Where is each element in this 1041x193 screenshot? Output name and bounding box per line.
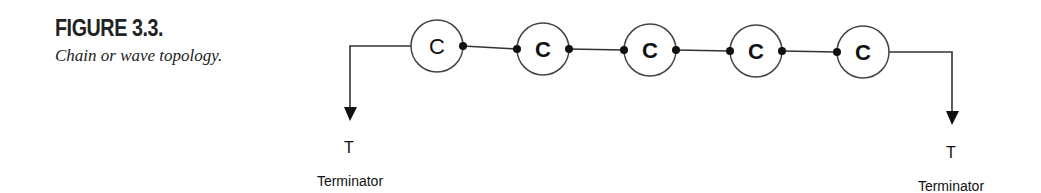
node-label: C xyxy=(855,40,871,65)
connector-left-dot xyxy=(726,47,734,55)
left-terminator-arrow-icon xyxy=(344,107,357,121)
right-terminator-wire xyxy=(889,52,952,114)
node-label: C xyxy=(535,37,551,62)
left-terminator-label: Terminator xyxy=(317,173,383,189)
connector-left-dot xyxy=(833,48,841,56)
node: C xyxy=(411,20,467,72)
node-label: C xyxy=(748,39,764,64)
connector-right-dot xyxy=(565,45,573,53)
node: C xyxy=(513,23,573,75)
nodes: CCCCC xyxy=(411,20,889,78)
chain-link xyxy=(782,51,837,52)
right-terminator-label: Terminator xyxy=(918,178,984,193)
right-terminator-arrow-icon xyxy=(946,111,959,125)
left-terminator-wire xyxy=(350,46,411,110)
node-label: C xyxy=(642,38,658,63)
connector-right-dot xyxy=(778,47,786,55)
chain-link xyxy=(676,50,730,51)
connector-right-dot xyxy=(459,42,467,50)
chain-link xyxy=(569,49,624,50)
terminators: T Terminator T Terminator xyxy=(317,107,984,193)
node-label: C xyxy=(429,34,445,59)
node: C xyxy=(833,26,889,78)
node: C xyxy=(620,24,680,76)
right-terminator-symbol: T xyxy=(946,144,956,161)
chain-topology-diagram: CCCCC T Terminator T Terminator xyxy=(0,0,1041,193)
connector-left-dot xyxy=(513,45,521,53)
connector-right-dot xyxy=(672,46,680,54)
left-terminator-symbol: T xyxy=(344,139,354,156)
connector-left-dot xyxy=(620,46,628,54)
node: C xyxy=(726,25,786,77)
chain-link xyxy=(463,46,517,49)
